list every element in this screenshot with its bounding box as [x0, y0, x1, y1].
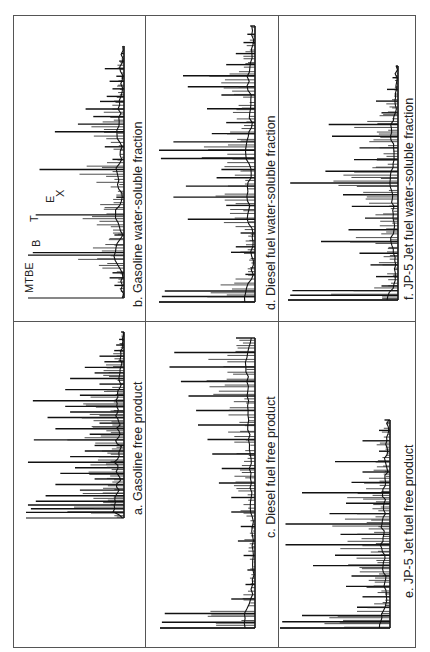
panel-label-d: d. Diesel fuel water-soluble fraction: [264, 115, 278, 310]
peak-label-x: X: [54, 190, 66, 197]
peak-label-b: B: [30, 240, 42, 247]
chromatogram-f: [288, 66, 398, 300]
chromatogram-d: [159, 26, 255, 302]
panel-label-a: a. Gasoline free product: [131, 382, 145, 515]
chromatogram-traces: [0, 0, 430, 652]
panel-label-e: e. JP-5 Jet fuel free product: [402, 444, 416, 598]
panel-label-f: f. JP-5 Jet fuel water-soluble fraction: [402, 98, 416, 300]
panel-label-b: b. Gasoline water-soluble fraction: [131, 121, 145, 307]
chromatogram-figure: a. Gasoline free product b. Gasoline wat…: [0, 0, 430, 652]
peak-label-t: T: [28, 215, 40, 222]
chromatogram-a: [26, 332, 124, 518]
chromatogram-b: [28, 46, 124, 298]
chromatogram-e: [280, 420, 390, 628]
panel-label-c: c. Diesel fuel free product: [264, 396, 278, 538]
peak-label-mtbe: MTBE: [23, 262, 35, 293]
chromatogram-c: [160, 338, 255, 628]
